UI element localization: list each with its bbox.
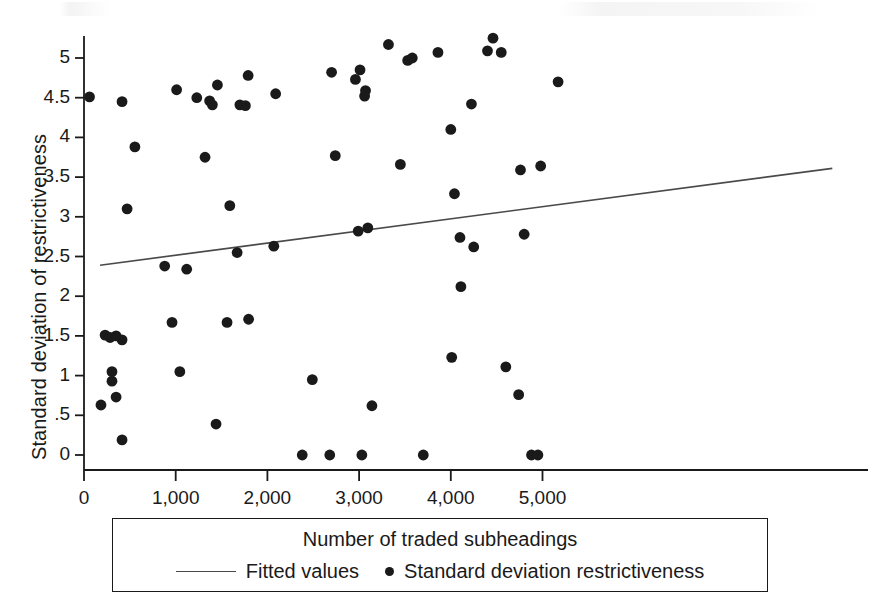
- fitted-values-line: [100, 168, 832, 265]
- scatter-point: [468, 242, 479, 253]
- scatter-point: [418, 450, 429, 461]
- scatter-point: [243, 314, 254, 325]
- scatter-point: [84, 92, 95, 103]
- scatter-point: [553, 76, 564, 87]
- scatter-point: [355, 65, 366, 76]
- scatter-point: [515, 165, 526, 176]
- x-tick-label: 5,000: [493, 487, 593, 509]
- scatter-point: [360, 85, 371, 96]
- scatter-point: [466, 99, 477, 110]
- scatter-point: [232, 247, 243, 258]
- x-tick-label: 0: [34, 487, 134, 509]
- y-tick-label: 3: [22, 205, 70, 227]
- scatter-point: [362, 223, 373, 234]
- scatter-point: [224, 200, 235, 211]
- scatter-point: [96, 400, 107, 411]
- scatter-point: [500, 361, 511, 372]
- y-tick-label: 5: [22, 46, 70, 68]
- scatter-point: [533, 450, 544, 461]
- scatter-point: [211, 419, 222, 430]
- scatter-point: [330, 150, 341, 161]
- scatter-point: [159, 261, 170, 272]
- scatter-point: [191, 92, 202, 103]
- legend-entries: Fitted values Standard deviation restric…: [113, 560, 767, 583]
- legend-label-fitted-values: Fitted values: [246, 560, 359, 583]
- scatter-point: [243, 70, 254, 81]
- scatter-point: [513, 389, 524, 400]
- scatter-point: [307, 374, 318, 385]
- fitted-values-line-swatch: [176, 571, 236, 572]
- y-tick-label: 2.5: [22, 245, 70, 267]
- scatter-point: [383, 39, 394, 50]
- y-tick-label: 3.5: [22, 165, 70, 187]
- y-tick-label: 2: [22, 284, 70, 306]
- scatter-point: [367, 400, 378, 411]
- scatter-point: [350, 74, 361, 85]
- x-tick-marks: [84, 470, 543, 481]
- scatter-point: [117, 334, 128, 345]
- x-tick-label: 3,000: [309, 487, 409, 509]
- scatter-point: [122, 203, 133, 214]
- axes-group: [84, 36, 868, 470]
- scatter-points-group: [84, 33, 563, 461]
- scatter-point: [270, 88, 281, 99]
- scatter-point: [407, 53, 418, 64]
- scatter-point: [174, 366, 185, 377]
- scatter-point: [111, 392, 122, 403]
- scatter-point: [535, 161, 546, 172]
- scatter-point: [171, 84, 182, 95]
- scatter-point: [181, 264, 192, 275]
- y-tick-label: .5: [22, 403, 70, 425]
- x-tick-label: 2,000: [217, 487, 317, 509]
- scatter-point: [129, 142, 140, 153]
- fitted-values-line-path: [100, 168, 832, 265]
- scatter-point: [200, 152, 211, 163]
- scatter-point: [324, 450, 335, 461]
- y-tick-label: 4.5: [22, 86, 70, 108]
- scatter-point: [446, 352, 457, 363]
- x-axis-title: Number of traded subheadings: [113, 528, 767, 551]
- legend-box: Number of traded subheadings Fitted valu…: [112, 518, 768, 592]
- scatter-point: [455, 232, 466, 243]
- scatter-point: [519, 229, 530, 240]
- legend-label-standard-deviation: Standard deviation restrictiveness: [404, 560, 704, 583]
- y-tick-label: 1: [22, 364, 70, 386]
- scatter-point: [455, 281, 466, 292]
- scatter-point: [488, 33, 499, 44]
- scatter-point: [107, 366, 118, 377]
- scatter-dot-swatch: [385, 567, 394, 576]
- scatter-point: [167, 317, 178, 328]
- scatter-point: [212, 80, 223, 91]
- scatter-point: [240, 100, 251, 111]
- scatter-point: [207, 99, 218, 110]
- scatter-point: [356, 450, 367, 461]
- x-tick-label: 1,000: [126, 487, 226, 509]
- scatter-point: [353, 226, 364, 237]
- y-tick-label: 1.5: [22, 324, 70, 346]
- y-tick-marks: [75, 58, 84, 455]
- scatter-point: [482, 45, 493, 56]
- scatter-point: [268, 241, 279, 252]
- scatter-point: [445, 124, 456, 135]
- scatter-point: [449, 188, 460, 199]
- scatter-plot-figure: Standard deviation of restrictiveness 0.…: [0, 0, 872, 613]
- scatter-point: [433, 47, 444, 58]
- y-tick-label: 0: [22, 443, 70, 465]
- y-tick-label: 4: [22, 125, 70, 147]
- scatter-point: [326, 67, 337, 78]
- x-tick-label: 4,000: [401, 487, 501, 509]
- scatter-point: [222, 317, 233, 328]
- scatter-point: [117, 435, 128, 446]
- scatter-point: [117, 96, 128, 107]
- scatter-point: [496, 47, 507, 58]
- scatter-point: [107, 376, 118, 387]
- scatter-point: [395, 159, 406, 170]
- scatter-point: [297, 450, 308, 461]
